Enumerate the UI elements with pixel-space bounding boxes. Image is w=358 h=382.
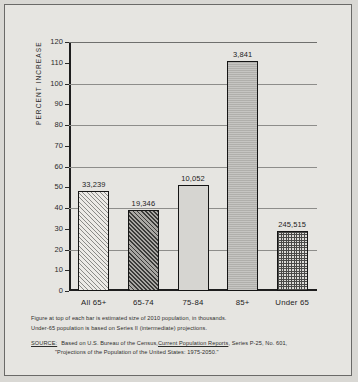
bar-65-74 — [128, 210, 159, 291]
footnote-line-2: Under-65 population is based on Series I… — [31, 323, 331, 333]
y-tick-label-30: 30 — [37, 224, 63, 233]
bar-value-label-85-: 3,841 — [213, 50, 273, 59]
x-tick-label-under-65: Under 65 — [262, 298, 322, 307]
y-tick-mark-10 — [65, 270, 69, 271]
source-label: SOURCE: — [31, 339, 57, 348]
y-tick-label-110: 110 — [37, 58, 63, 67]
source-line-1: SOURCE: Based on U.S. Bureau of the Cens… — [31, 339, 341, 348]
y-tick-mark-90 — [65, 104, 69, 105]
gridline-120 — [69, 42, 317, 43]
y-tick-mark-20 — [65, 250, 69, 251]
y-tick-label-90: 90 — [37, 99, 63, 108]
bar-value-label-75-84: 10,052 — [163, 174, 223, 183]
bar-value-label-65-74: 19,346 — [113, 199, 173, 208]
figure-border: PERCENT INCREASE 01020304050607080901001… — [4, 4, 352, 376]
y-tick-label-40: 40 — [37, 203, 63, 212]
bar-85- — [227, 61, 258, 291]
bar-75-84 — [178, 185, 209, 291]
y-tick-mark-70 — [65, 146, 69, 147]
gridline-100 — [69, 84, 317, 85]
bar-value-label-all-65-: 33,239 — [64, 180, 124, 189]
y-tick-label-80: 80 — [37, 120, 63, 129]
y-tick-mark-30 — [65, 229, 69, 230]
y-tick-mark-40 — [65, 208, 69, 209]
y-tick-mark-80 — [65, 125, 69, 126]
footnotes: Figure at top of each bar is estimated s… — [31, 313, 331, 333]
y-tick-label-50: 50 — [37, 182, 63, 191]
footnote-line-1: Figure at top of each bar is estimated s… — [31, 313, 331, 323]
source-citation: SOURCE: Based on U.S. Bureau of the Cens… — [31, 339, 341, 357]
gridline-60 — [69, 167, 317, 168]
y-tick-label-70: 70 — [37, 141, 63, 150]
chart-plot-area: 0102030405060708090100110120 33,23919,34… — [69, 42, 317, 291]
y-tick-mark-100 — [65, 84, 69, 85]
y-tick-label-10: 10 — [37, 265, 63, 274]
source-text-post: , Series P-25, No. 601, — [228, 339, 287, 348]
y-tick-label-100: 100 — [37, 79, 63, 88]
y-tick-mark-120 — [65, 42, 69, 43]
source-publication-title: Current Population Reports — [158, 339, 228, 348]
y-tick-mark-60 — [65, 167, 69, 168]
bar-under-65 — [277, 231, 308, 291]
y-tick-label-120: 120 — [37, 37, 63, 46]
y-tick-label-20: 20 — [37, 245, 63, 254]
bar-all-65- — [78, 191, 109, 291]
source-text-pre: Based on U.S. Bureau of the Census, — [61, 339, 158, 348]
bar-value-label-under-65: 245,515 — [262, 220, 322, 229]
y-tick-label-60: 60 — [37, 162, 63, 171]
gridline-80 — [69, 125, 317, 126]
source-line-2: "Projections of the Population of the Un… — [55, 348, 341, 357]
y-tick-mark-110 — [65, 63, 69, 64]
scanned-page: PERCENT INCREASE 01020304050607080901001… — [0, 0, 358, 382]
y-tick-label-0: 0 — [37, 286, 63, 295]
y-tick-mark-0 — [65, 291, 69, 292]
